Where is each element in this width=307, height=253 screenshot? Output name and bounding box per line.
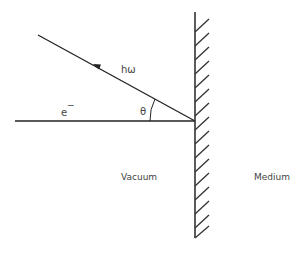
diagram-canvas: hω e − θ Vacuum Medium — [0, 0, 307, 253]
electron-charge-label: − — [67, 100, 75, 110]
angle-label: θ — [140, 106, 146, 117]
boundary-hatching — [195, 19, 209, 238]
vacuum-label: Vacuum — [121, 172, 157, 182]
angle-arc — [150, 99, 155, 121]
photon-label: hω — [121, 64, 136, 75]
medium-label: Medium — [254, 172, 290, 182]
